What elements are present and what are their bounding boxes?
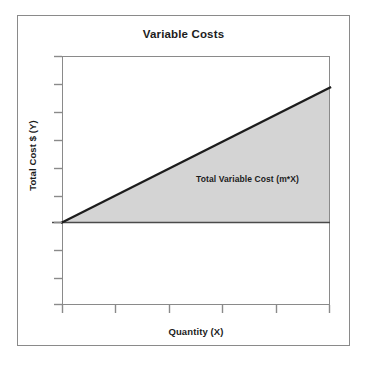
chart-title: Variable Costs — [17, 28, 350, 40]
area-annotation-label: Total Variable Cost (m*X) — [196, 174, 299, 184]
chart-figure: Variable Costs — [0, 0, 369, 367]
x-axis-label: Quantity (X) — [62, 326, 330, 337]
y-axis-label: Total Cost $ (Y) — [27, 96, 38, 216]
